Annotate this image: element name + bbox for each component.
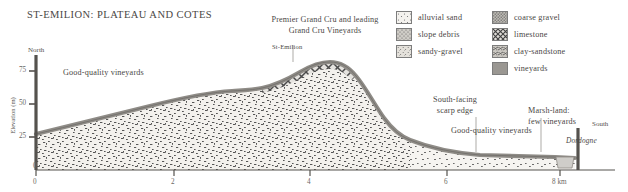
river-dordogne xyxy=(556,157,574,168)
annotation-premier-grand-cru-line1: Premier Grand Cru and leading xyxy=(255,15,395,26)
legend-label-alluvial-sand: alluvial sand xyxy=(418,13,462,22)
y-axis xyxy=(29,55,36,170)
legend-label-sandy-gravel: sandy-gravel xyxy=(418,47,463,56)
annotation-scarp-line1: South-facing xyxy=(415,95,495,106)
y-tick-50: 50 xyxy=(19,99,26,107)
legend-item-coarse-gravel: coarse gravel xyxy=(492,9,565,25)
annotation-marsh-line1: Marsh-land: xyxy=(528,106,576,117)
legend-item-slope-debris: slope debris xyxy=(396,26,463,42)
annotation-marsh-line2: few vineyards xyxy=(528,117,576,128)
x-tick-4: 4 xyxy=(307,178,311,186)
legend-item-limestone: limestone xyxy=(492,26,565,42)
swatch-vineyards xyxy=(492,62,508,75)
swatch-alluvial-sand xyxy=(396,11,412,24)
x-tick-8km: 8 km xyxy=(552,178,567,186)
annotation-premier-grand-cru-line2: Grand Cru Vineyards xyxy=(255,26,395,37)
swatch-sandy-gravel xyxy=(396,45,412,58)
cross-section-figure: ST-EMILION: PLATEAU AND COTES North Sout… xyxy=(0,0,628,192)
annotation-good-quality-vineyards-left: Good-quality vineyards xyxy=(63,68,144,79)
legend-label-clay-sandstone: clay-sandstone xyxy=(514,47,565,56)
y-tick-0: 0 xyxy=(33,162,37,170)
south-label: South xyxy=(592,120,608,128)
annotation-st-emilion: St-Emilion xyxy=(272,43,302,51)
swatch-limestone xyxy=(492,28,508,41)
annotation-marsh-land: Marsh-land: few vineyards xyxy=(528,106,576,127)
annotation-premier-grand-cru: Premier Grand Cru and leading Grand Cru … xyxy=(255,15,395,36)
swatch-clay-sandstone xyxy=(492,45,508,58)
legend-label-vineyards: vineyards xyxy=(514,64,548,73)
legend-item-sandy-gravel: sandy-gravel xyxy=(396,43,463,59)
x-tick-0: 0 xyxy=(33,178,37,186)
x-tick-6: 6 xyxy=(444,178,448,186)
x-axis-ticks xyxy=(36,170,560,176)
annotation-scarp-line2: scarp edge xyxy=(415,106,495,117)
y-axis-label: Elevation (m) xyxy=(9,86,16,146)
annotation-south-facing-scarp-edge: South-facing scarp edge xyxy=(415,95,495,116)
swatch-coarse-gravel xyxy=(492,11,508,24)
legend-item-clay-sandstone: clay-sandstone xyxy=(492,43,565,59)
legend-label-slope-debris: slope debris xyxy=(418,30,460,39)
legend-item-alluvial-sand: alluvial sand xyxy=(396,9,463,25)
page-title: ST-EMILION: PLATEAU AND COTES xyxy=(27,9,212,20)
y-tick-75: 75 xyxy=(19,66,26,74)
north-label: North xyxy=(28,46,44,54)
x-tick-2: 2 xyxy=(171,178,175,186)
annotation-dordogne-river: Dordogne xyxy=(566,136,597,145)
y-tick-25: 25 xyxy=(19,132,26,140)
legend-label-coarse-gravel: coarse gravel xyxy=(514,13,560,22)
legend-column-1: alluvial sand slope debris sandy-gravel xyxy=(396,9,463,60)
annotation-good-quality-vineyards-right: Good-quality vineyards xyxy=(451,126,532,137)
legend-column-2: coarse gravel limestone clay-sandstone v… xyxy=(492,9,565,77)
legend-item-vineyards: vineyards xyxy=(492,60,565,76)
swatch-slope-debris xyxy=(396,28,412,41)
legend-label-limestone: limestone xyxy=(514,30,548,39)
